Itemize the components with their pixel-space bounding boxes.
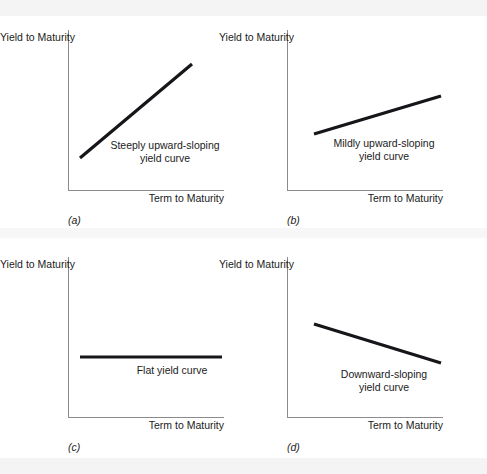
annotation-d: Downward-sloping yield curve [320,368,448,394]
annotation-b: Mildly upward-sloping yield curve [320,137,448,163]
panel-a: Yield to Maturity Term to Maturity Steep… [0,0,243,237]
panel-b: Yield to Maturity Term to Maturity Mildl… [244,0,487,237]
x-axis-label-a: Term to Maturity [120,192,224,205]
x-axis-label-d: Term to Maturity [339,419,443,432]
caption-d: (d) [287,441,300,453]
y-axis-a [68,30,69,190]
y-axis-b [287,30,288,190]
caption-b: (b) [287,214,300,226]
curve-d [244,237,487,474]
x-axis-d [287,417,443,418]
caption-a: (a) [68,214,81,226]
x-axis-label-c: Term to Maturity [120,419,224,432]
curve-c [0,237,243,474]
x-axis-label-b: Term to Maturity [339,192,443,205]
yield-curve-figure: Yield to Maturity Term to Maturity Steep… [0,0,487,474]
y-axis-label-d: Yield to Maturity [219,258,282,271]
x-axis-a [68,190,224,191]
annotation-c: Flat yield curve [120,364,224,377]
panel-c: Yield to Maturity Term to Maturity Flat … [0,237,243,474]
y-axis-c [68,257,69,417]
x-axis-c [68,417,224,418]
x-axis-b [287,190,443,191]
y-axis-label-c: Yield to Maturity [0,258,63,271]
y-axis-label-b: Yield to Maturity [219,31,282,44]
y-axis-label-a: Yield to Maturity [0,31,63,44]
y-axis-d [287,257,288,417]
caption-c: (c) [68,441,80,453]
panel-d: Yield to Maturity Term to Maturity Downw… [244,237,487,474]
annotation-a: Steeply upward-sloping yield curve [100,139,230,165]
